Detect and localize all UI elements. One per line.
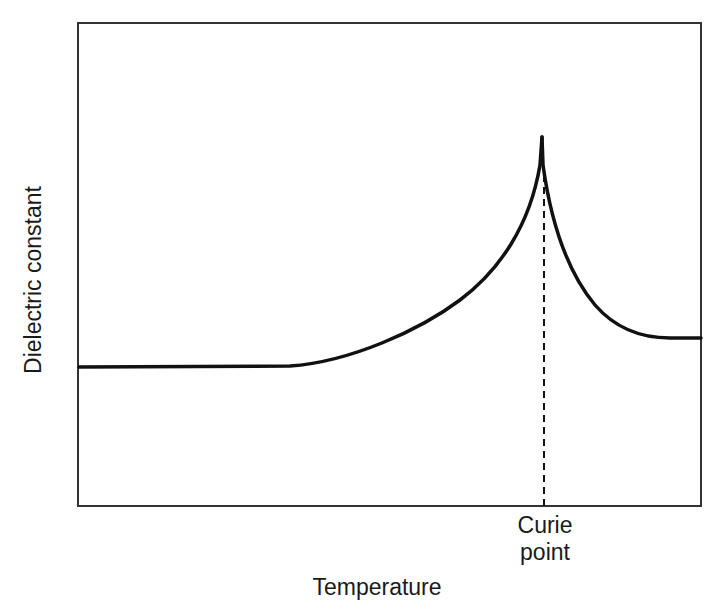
dielectric-curve-right bbox=[542, 137, 701, 338]
plot-frame bbox=[78, 23, 701, 506]
y-axis-label: Dielectric constant bbox=[20, 186, 47, 374]
dielectric-curve-left bbox=[79, 137, 542, 367]
x-axis-label: Temperature bbox=[300, 574, 454, 601]
annotation-line-2: point bbox=[505, 539, 585, 566]
curie-point-annotation: Curie point bbox=[505, 512, 585, 566]
chart-canvas bbox=[0, 0, 720, 610]
annotation-line-1: Curie bbox=[505, 512, 585, 539]
